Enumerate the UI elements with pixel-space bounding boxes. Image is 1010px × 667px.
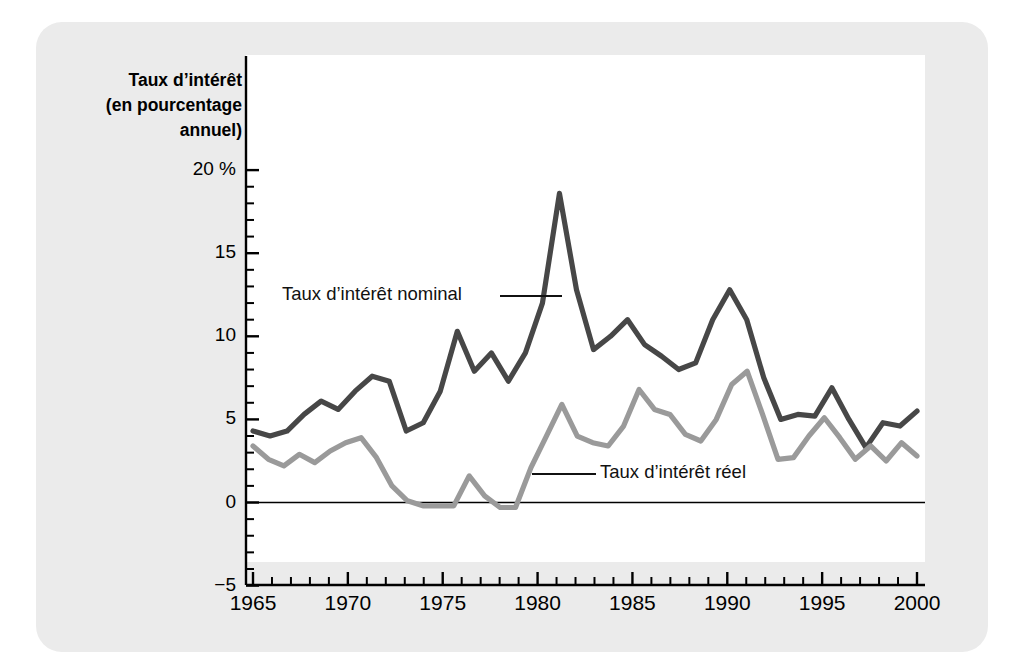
line-series-nominal [253,193,917,447]
y-tick-label: 15 [150,241,236,263]
series-label-nominal: Taux d’intérêt nominal [282,283,462,305]
series-label-reel: Taux d’intérêt réel [600,461,746,483]
x-tick-label: 1970 [308,591,388,615]
x-tick-label: 1965 [213,591,293,615]
y-tick-label: 0 [150,491,236,513]
x-tick-label: 1985 [592,591,672,615]
series-group [253,193,917,507]
y-tick-label: 5 [150,407,236,429]
x-tick-label: 1995 [782,591,862,615]
y-tick-label: 20 % [150,158,236,180]
x-tick-label: 1980 [498,591,578,615]
annotation-leader-lines [500,296,596,474]
figure-page: Taux d’intérêt (en pourcentage annuel) −… [0,0,1010,667]
x-tick-label: 1975 [403,591,483,615]
x-tick-label: 1990 [687,591,767,615]
x-tick-label: 2000 [877,591,957,615]
y-tick-label: 10 [150,324,236,346]
